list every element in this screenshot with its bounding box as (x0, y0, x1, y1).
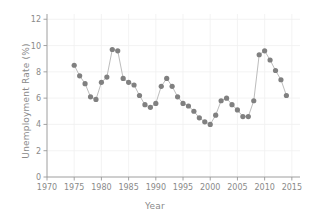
x-tick-label: 1980 (91, 183, 111, 192)
data-point-marker (257, 52, 262, 57)
data-point-marker (175, 94, 180, 99)
y-tick-label: 12 (31, 15, 41, 24)
data-point-marker (251, 98, 256, 103)
y-tick-labels-group: 024681012 (31, 15, 41, 182)
data-point-marker (262, 48, 267, 53)
data-point-marker (240, 114, 245, 119)
data-point-marker (115, 48, 120, 53)
data-point-marker (208, 122, 213, 127)
x-tick-label: 1975 (64, 183, 84, 192)
data-point-marker (224, 96, 229, 101)
data-point-marker (72, 63, 77, 68)
data-point-marker (246, 114, 251, 119)
data-point-marker (153, 101, 158, 106)
data-point-marker (82, 81, 87, 86)
y-tick-label: 0 (36, 173, 41, 182)
data-point-marker (142, 102, 147, 107)
data-point-marker (170, 84, 175, 89)
data-point-marker (164, 76, 169, 81)
series-polyline (74, 49, 286, 124)
data-point-marker (278, 77, 283, 82)
data-point-marker (126, 80, 131, 85)
gridlines-group (47, 14, 300, 177)
data-point-marker (284, 93, 289, 98)
data-point-marker (137, 93, 142, 98)
data-point-marker (121, 76, 126, 81)
x-tick-label: 1995 (173, 183, 193, 192)
y-tick-label: 4 (36, 120, 41, 129)
chart-plot-area: 1970197519801985199019952000200520102015… (0, 0, 310, 219)
x-tick-label: 2000 (200, 183, 220, 192)
data-point-marker (148, 105, 153, 110)
axis-lines-group (47, 14, 300, 177)
data-point-marker (267, 57, 272, 62)
x-axis-title: Year (0, 201, 310, 211)
data-point-marker (197, 115, 202, 120)
data-point-marker (99, 80, 104, 85)
data-point-marker (131, 82, 136, 87)
data-point-marker (235, 107, 240, 112)
data-point-marker (202, 119, 207, 124)
data-point-marker (77, 73, 82, 78)
data-point-marker (229, 102, 234, 107)
data-point-marker (88, 94, 93, 99)
x-tick-label: 1985 (118, 183, 138, 192)
data-series-markers (72, 47, 289, 127)
y-axis-title: Unemployment Rate (%) (21, 31, 31, 171)
x-tick-labels-group: 1970197519801985199019952000200520102015 (37, 183, 302, 192)
x-tick-label: 2015 (282, 183, 302, 192)
unemployment-rate-chart: 1970197519801985199019952000200520102015… (0, 0, 310, 219)
y-tick-label: 6 (36, 94, 41, 103)
x-tick-label: 2005 (227, 183, 247, 192)
y-tick-label: 10 (31, 42, 41, 51)
data-point-marker (191, 109, 196, 114)
x-tick-label: 2010 (254, 183, 274, 192)
data-point-marker (273, 68, 278, 73)
data-point-marker (219, 98, 224, 103)
x-tick-label: 1970 (37, 183, 57, 192)
x-tick-label: 1990 (146, 183, 166, 192)
data-point-marker (180, 101, 185, 106)
data-point-marker (110, 47, 115, 52)
data-point-marker (213, 113, 218, 118)
y-tick-label: 8 (36, 68, 41, 77)
data-point-marker (104, 75, 109, 80)
data-point-marker (93, 97, 98, 102)
data-point-marker (186, 103, 191, 108)
data-point-marker (159, 84, 164, 89)
y-tick-label: 2 (36, 147, 41, 156)
data-series-line (74, 49, 286, 124)
